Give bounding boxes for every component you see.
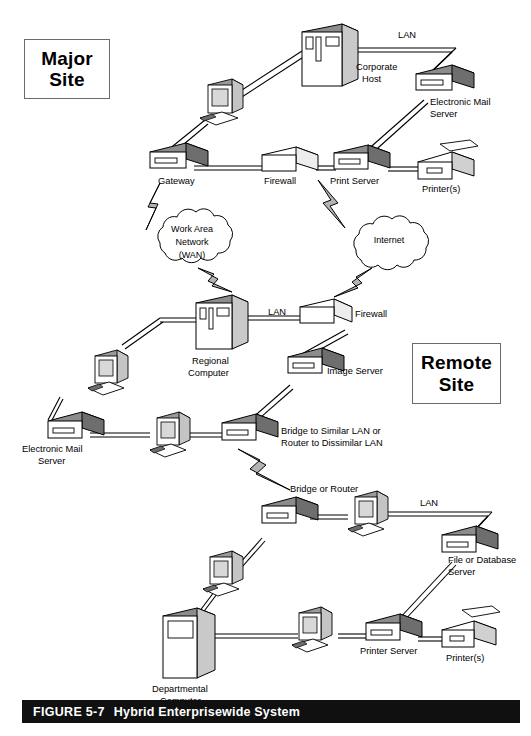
site-box-major-line2: Site — [49, 69, 85, 90]
link-email-server-print-server — [365, 100, 424, 152]
departmental-side — [197, 608, 215, 678]
bridge-lower-slot — [267, 513, 288, 518]
device-printer-server-bottom[interactable]: Printer Server — [360, 614, 422, 656]
firewall-major-front — [262, 155, 296, 171]
lightning-bolt-internet-firewall — [334, 268, 372, 297]
site-box-major-line1: Major — [41, 48, 93, 69]
bridge-lower-label: Bridge or Router — [290, 484, 358, 494]
lightning-bolt-gateway-wan — [146, 183, 160, 230]
figure-caption-label: FIGURE 5-7 — [33, 705, 105, 719]
email-server-major-label-line2: Server — [430, 109, 457, 119]
internet-label: Internet — [374, 235, 405, 245]
wan-label-line1: Work Area — [171, 224, 213, 234]
file-db-label-line1: File or Database — [448, 555, 516, 565]
device-electronic-mail-server-remote[interactable]: Electronic Mail Server — [22, 412, 104, 466]
ws-lan-right-monitor-side — [377, 491, 388, 524]
email-server-remote-side — [82, 412, 104, 435]
printer-server-bottom-label: Printer Server — [360, 646, 417, 656]
ws-remote-left-monitor-side — [117, 350, 128, 383]
link-ws-left-regional-b — [125, 322, 163, 349]
device-workstation-major[interactable] — [200, 79, 243, 125]
ws-lan-lower-monitor-side — [232, 551, 243, 584]
lan-label-bottom: LAN — [420, 498, 438, 508]
device-firewall-major[interactable]: Firewall — [262, 147, 318, 186]
corporate-host-panel-a — [306, 37, 313, 49]
device-print-server[interactable]: Print Server — [330, 145, 390, 186]
corporate-host-panel-c — [326, 37, 339, 46]
print-server-slot — [339, 159, 360, 164]
site-box-major: Major Site — [24, 39, 110, 99]
figure-container: Work Area Network (WAN) Internet Corpora… — [0, 0, 531, 736]
ws-remote-center-monitor-side — [179, 412, 190, 445]
device-workstation-lan-right[interactable] — [348, 491, 388, 536]
file-db-side — [476, 526, 498, 549]
figure-caption-bar: FIGURE 5-7 Hybrid Enterprisewide System — [22, 700, 520, 723]
regional-computer-label-line2: Computer — [188, 368, 229, 378]
workstation-major-screen — [212, 89, 228, 106]
device-workstation-remote-center[interactable] — [150, 412, 190, 457]
ws-remote-left-screen — [99, 360, 113, 376]
printers-major-side — [452, 152, 474, 176]
printer-server-bottom-side — [400, 614, 422, 637]
regional-computer-panel-c — [217, 308, 229, 316]
firewall-remote-side — [334, 299, 352, 322]
email-server-major-slot — [421, 80, 443, 85]
printers-major-label: Printer(s) — [422, 184, 460, 194]
bridge-upper-label-line2: Router to Dissimilar LAN — [281, 438, 383, 448]
ws-remote-center-screen — [161, 422, 175, 438]
corporate-host-label-line1: Corporate — [356, 62, 397, 72]
firewall-major-label: Firewall — [264, 176, 296, 186]
bridge-upper-slot — [227, 430, 248, 435]
device-regional-computer[interactable]: Regional Computer — [188, 295, 248, 378]
printers-bottom-tray — [450, 636, 464, 641]
email-server-remote-label-line2: Server — [38, 456, 65, 466]
ws-dept-monitor-side — [321, 607, 332, 640]
printers-major-paper — [440, 140, 478, 151]
device-printers-major[interactable]: Printer(s) — [418, 140, 478, 194]
device-image-server[interactable]: Image Server — [288, 348, 383, 376]
corporate-host-side — [342, 24, 358, 86]
device-departmental-computer[interactable]: Departmental Computer — [152, 608, 215, 706]
link-file-db-printer-server — [398, 562, 452, 620]
wan-label-line2: Network — [175, 237, 209, 247]
lan-label-middle: LAN — [268, 307, 286, 317]
device-corporate-host[interactable]: Corporate Host — [302, 24, 397, 86]
departmental-label-line1: Departmental — [152, 684, 208, 694]
printers-bottom-side — [474, 621, 496, 645]
ws-lan-right-screen — [359, 501, 373, 517]
lan-label-top: LAN — [398, 30, 416, 40]
device-workstation-lan-lower[interactable] — [203, 551, 243, 596]
regional-computer-label-line1: Regional — [192, 356, 229, 366]
gateway-slot — [155, 158, 177, 163]
wan-label-line3: (WAN) — [179, 250, 206, 260]
site-box-remote-line1: Remote — [421, 352, 492, 373]
printers-bottom-label: Printer(s) — [446, 653, 484, 663]
email-server-major-label-line1: Electronic Mail — [430, 97, 490, 107]
device-printers-bottom[interactable]: Printer(s) — [442, 606, 500, 663]
cloud-wan: Work Area Network (WAN) — [158, 209, 233, 263]
figure-caption-title: Hybrid Enterprisewide System — [114, 705, 300, 719]
file-db-slot — [447, 542, 468, 547]
device-bridge-router-upper[interactable]: Bridge to Similar LAN or Router to Dissi… — [222, 414, 383, 448]
device-workstation-departmental[interactable] — [292, 607, 332, 652]
email-server-remote-slot — [53, 428, 74, 433]
regional-computer-panel-a — [200, 308, 206, 319]
workstation-major-monitor-side — [232, 79, 243, 113]
site-box-remote: Remote Site — [412, 343, 501, 404]
device-gateway[interactable]: Gateway — [150, 143, 208, 186]
device-bridge-router-lower[interactable]: Bridge or Router — [262, 484, 358, 523]
device-file-database-server[interactable]: File or Database Server — [442, 526, 516, 577]
printers-bottom-paper — [462, 606, 500, 617]
ws-lan-lower-screen — [214, 561, 228, 577]
print-server-side — [368, 145, 390, 168]
cloud-internet: Internet — [354, 216, 429, 270]
email-server-remote-label-line1: Electronic Mail — [22, 444, 82, 454]
gateway-label: Gateway — [158, 176, 195, 186]
device-firewall-remote[interactable]: Firewall — [300, 299, 387, 323]
print-server-label: Print Server — [330, 176, 379, 186]
device-electronic-mail-server-major[interactable]: Electronic Mail Server — [416, 65, 490, 119]
device-workstation-remote-left[interactable] — [88, 350, 128, 395]
printers-major-tray — [427, 168, 442, 173]
lightning-bolt-wan-regional — [198, 268, 232, 292]
email-server-major-side — [452, 65, 474, 88]
